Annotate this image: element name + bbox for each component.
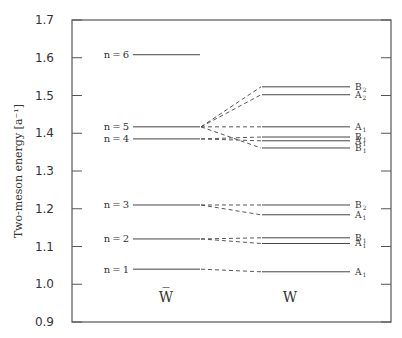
wbar-level-label: n = 1 xyxy=(104,264,129,275)
w-level-label: B1 xyxy=(355,233,366,244)
level-connectors xyxy=(201,87,261,272)
y-tick-label: 1.6 xyxy=(35,51,54,65)
wbar-level-label: n = 3 xyxy=(104,199,129,210)
x-label-wbar: W̅ xyxy=(159,287,174,305)
y-axis-label: Two-meson energy [a⁻¹] xyxy=(12,104,25,238)
level-connector xyxy=(201,139,261,141)
y-axis-ticks xyxy=(72,20,391,322)
level-connector xyxy=(201,239,261,244)
level-connector xyxy=(201,95,261,127)
wbar-level-label: n = 6 xyxy=(104,49,129,60)
wbar-level-label: n = 4 xyxy=(104,133,129,144)
wbar-level-label: n = 5 xyxy=(104,121,129,132)
w-levels: A1A1B1A1B2B1A1B1A1A2B2 xyxy=(262,82,367,278)
y-tick-label: 1.7 xyxy=(35,13,54,27)
level-connector xyxy=(201,269,261,272)
w-level-label: A1 xyxy=(354,210,366,221)
level-connector xyxy=(201,205,261,215)
y-tick-label: 1.4 xyxy=(35,126,54,140)
w-level-label: B2 xyxy=(355,200,367,211)
w-level-label: A1 xyxy=(354,122,366,133)
y-tick-label: 1.3 xyxy=(35,164,54,178)
y-axis-tick-labels: 0.91.01.11.21.31.41.51.61.7 xyxy=(35,13,54,329)
x-label-w: W xyxy=(283,289,298,305)
y-tick-label: 1.1 xyxy=(35,240,54,254)
y-tick-label: 1.5 xyxy=(35,89,54,103)
y-tick-label: 0.9 xyxy=(35,315,54,329)
wbar-level-label: n = 2 xyxy=(104,233,129,244)
wbar-levels: n = 1n = 2n = 3n = 4n = 5n = 6 xyxy=(104,49,200,274)
plot-frame xyxy=(72,20,391,322)
level-connector xyxy=(201,87,261,127)
w-level-label: B2 xyxy=(355,82,367,93)
level-connector xyxy=(201,238,261,239)
w-level-label: A1 xyxy=(354,267,366,278)
y-tick-label: 1.0 xyxy=(35,277,54,291)
energy-level-chart: 0.91.01.11.21.31.41.51.61.7 Two-meson en… xyxy=(0,0,402,338)
w-level-label: B1 xyxy=(355,132,366,143)
y-tick-label: 1.2 xyxy=(35,202,54,216)
